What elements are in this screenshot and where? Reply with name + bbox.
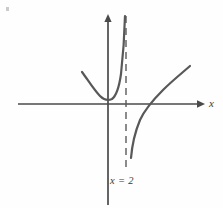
x-axis bbox=[18, 100, 205, 108]
graph-figure: x x = 2 bbox=[0, 0, 223, 208]
curve-right-branch bbox=[131, 66, 190, 158]
x-axis-arrowhead bbox=[197, 100, 205, 108]
asymptote-label: x = 2 bbox=[110, 176, 134, 187]
x-axis-label: x bbox=[209, 98, 214, 109]
y-axis-arrowhead bbox=[104, 14, 111, 22]
curve-left-branch bbox=[82, 16, 125, 100]
